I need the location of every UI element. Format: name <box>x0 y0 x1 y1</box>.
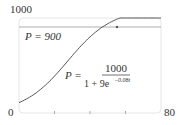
equation-numerator: 1000 <box>105 63 127 74</box>
chart-canvas <box>0 0 183 125</box>
x-tick-label-min: 0 <box>8 107 14 118</box>
equation-denominator: 1 + 9e <box>84 78 109 89</box>
equation-exponent: −0.08t <box>114 77 130 83</box>
equation-lhs: P = <box>65 70 82 81</box>
reference-line-label: P = 900 <box>25 31 61 42</box>
x-tick-label-max: 80 <box>164 107 175 118</box>
intersection-point <box>116 26 118 28</box>
y-tick-label-max: 1000 <box>10 4 32 15</box>
